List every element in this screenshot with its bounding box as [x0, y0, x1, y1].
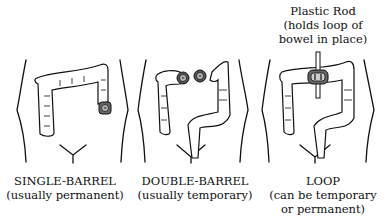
caption-single-barrel: SINGLE-BARREL (usually permanent) — [0, 174, 130, 202]
colon-icon — [35, 64, 108, 136]
caption-title: SINGLE-BARREL — [0, 174, 130, 188]
panel-single-barrel: * SINGLE-BARREL (usually permanent) — [0, 0, 130, 221]
caption-title: LOOP — [258, 174, 388, 188]
caption-subtitle: (usually permanent) — [0, 188, 130, 202]
caption-double-barrel: DOUBLE-BARREL (usually temporary) — [130, 174, 260, 202]
caption-loop: LOOP (can be temporary or permanent) — [258, 174, 388, 216]
panel-loop: Plastic Rod (holds loop of bowel in plac… — [258, 0, 388, 221]
svg-text:*: * — [199, 73, 202, 80]
plastic-rod-icon — [308, 52, 328, 98]
caption-subtitle: (can be temporary — [258, 188, 388, 202]
stoma-icon: * — [99, 102, 111, 114]
colon-icon — [156, 62, 230, 158]
caption-title: DOUBLE-BARREL — [130, 174, 260, 188]
caption-subtitle: (usually temporary) — [130, 188, 260, 202]
svg-text:*: * — [182, 75, 185, 82]
caption-subtitle-line-2: or permanent) — [258, 202, 388, 216]
stoma-proximal-icon: * — [177, 72, 189, 84]
svg-text:*: * — [104, 105, 107, 112]
torso-left-outline — [17, 60, 26, 162]
panel-double-barrel: * * DOUBLE-BARREL (usually temporary) — [130, 0, 260, 221]
stoma-distal-icon: * — [194, 70, 206, 82]
